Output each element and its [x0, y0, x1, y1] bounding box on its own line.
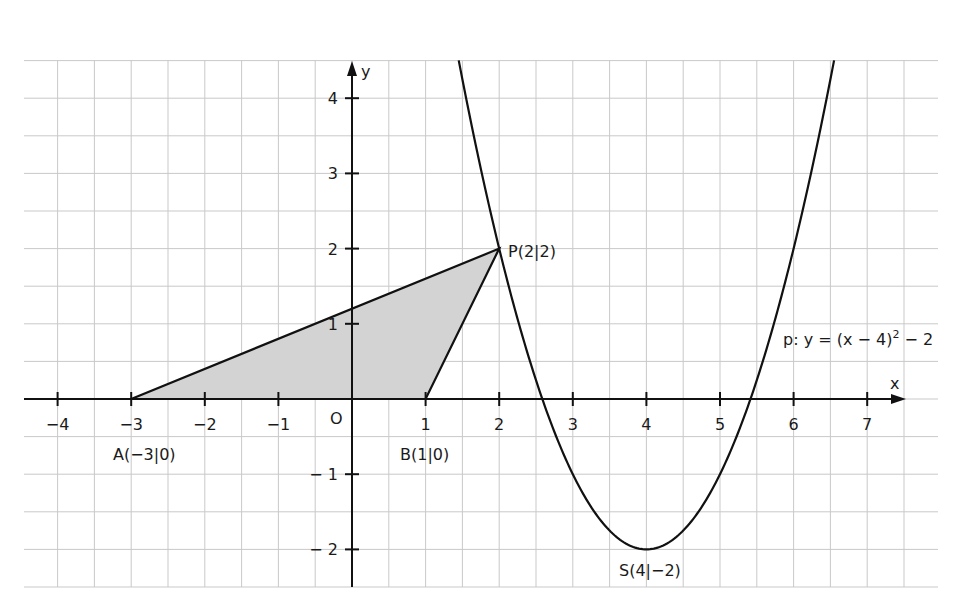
x-tick-label: 2: [494, 415, 504, 434]
plot-canvas: −4−3−2−112345674321− 1− 2 x y O A(−3|0) …: [0, 0, 962, 615]
y-axis-arrow-icon: [347, 61, 357, 76]
x-tick-label: 4: [641, 415, 651, 434]
equation-exponent: 2: [892, 328, 899, 341]
grid-lines: [24, 60, 938, 587]
coordinate-plot: −4−3−2−112345674321− 1− 2 x y O A(−3|0) …: [0, 0, 962, 615]
y-tick-label: 1: [328, 315, 338, 334]
x-tick-label: −1: [267, 415, 291, 434]
x-tick-label: 6: [789, 415, 799, 434]
y-tick-label: − 1: [309, 465, 338, 484]
x-tick-label: −2: [193, 415, 217, 434]
y-tick-label: − 2: [309, 540, 338, 559]
x-tick-label: −3: [119, 415, 143, 434]
point-a-label: A(−3|0): [113, 445, 176, 464]
x-tick-label: −4: [46, 415, 70, 434]
y-tick-label: 2: [328, 240, 338, 259]
point-p-label: P(2|2): [508, 242, 556, 261]
x-tick-label: 3: [568, 415, 578, 434]
y-tick-label: 4: [328, 89, 338, 108]
vertex-s-label: S(4|−2): [619, 561, 681, 580]
equation-main: p: y = (x − 4): [783, 330, 892, 349]
equation-tail: − 2: [899, 330, 933, 349]
x-tick-label: 1: [421, 415, 431, 434]
y-tick-label: 3: [328, 164, 338, 183]
y-axis-label: y: [361, 62, 370, 81]
origin-label: O: [330, 409, 343, 428]
parabola-equation: p: y = (x − 4)2 − 2: [783, 328, 933, 349]
x-tick-label: 7: [862, 415, 872, 434]
point-b-label: B(1|0): [400, 445, 449, 464]
x-tick-label: 5: [715, 415, 725, 434]
x-axis-label: x: [890, 374, 899, 393]
